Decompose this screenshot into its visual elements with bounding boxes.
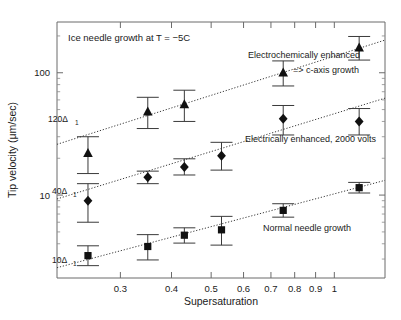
svg-text:1: 1: [73, 260, 77, 267]
axes-frame: [57, 22, 385, 278]
data-point-diamond: [84, 196, 93, 206]
data-point-square: [218, 226, 225, 233]
plot-svg: 10100 0.30.40.50.60.70.80.91 Supersatura…: [0, 0, 401, 320]
annotation-electrochemical-line2: => c-axis growth: [293, 65, 359, 75]
svg-text:1: 1: [75, 119, 79, 126]
annotation-normal: Normal needle growth: [263, 223, 351, 233]
svg-text:10Δ: 10Δ: [52, 255, 67, 265]
data-point-triangle: [143, 107, 153, 116]
x-tick-label: 0.8: [288, 283, 301, 294]
y-axis-label: Tip velocity (μm/sec): [6, 102, 18, 198]
data-point-diamond: [279, 114, 288, 124]
fit-label-10: 10Δ 1: [52, 255, 77, 267]
figure-root: 10100 0.30.40.50.60.70.80.91 Supersatura…: [0, 0, 401, 320]
fit-label-40: 40Δ 1: [52, 186, 77, 198]
annotation-electrochemical-line1: Electrochemically enhanced: [248, 50, 360, 60]
y-tick-label: 10: [39, 190, 50, 201]
data-point-diamond: [143, 172, 152, 182]
y-axis-tick-labels: 10100: [34, 67, 50, 200]
data-point-triangle: [83, 148, 93, 157]
y-tick-label: 100: [34, 67, 50, 78]
x-axis-tick-labels: 0.30.40.50.60.70.80.91: [114, 283, 337, 294]
x-tick-label: 0.9: [309, 283, 322, 294]
x-axis-label: Supersaturation: [184, 295, 258, 307]
data-point-triangle: [278, 68, 288, 77]
fit-label-120: 120Δ 1: [48, 114, 79, 126]
data-point-square: [144, 243, 151, 250]
x-tick-label: 0.7: [264, 283, 277, 294]
plot-title-note: Ice needle growth at T = −5C: [68, 32, 190, 43]
data-point-square: [280, 207, 287, 214]
svg-text:1: 1: [73, 191, 77, 198]
data-point-triangle: [180, 99, 190, 108]
x-tick-label: 0.5: [205, 283, 218, 294]
data-point-diamond: [355, 116, 364, 126]
annotation-electrical: Electrically enhanced, 2000 volts: [245, 134, 377, 144]
x-axis-ticks: [120, 22, 334, 278]
data-point-diamond: [217, 151, 226, 161]
data-point-square: [181, 232, 188, 239]
svg-text:40Δ: 40Δ: [52, 186, 67, 196]
data-point-square: [84, 252, 91, 259]
x-tick-label: 0.3: [114, 283, 127, 294]
data-point-diamond: [180, 162, 189, 172]
x-tick-label: 0.6: [237, 283, 250, 294]
svg-text:120Δ: 120Δ: [48, 114, 68, 124]
x-tick-label: 0.4: [165, 283, 178, 294]
x-tick-label: 1: [332, 283, 337, 294]
data-point-square: [356, 184, 363, 191]
